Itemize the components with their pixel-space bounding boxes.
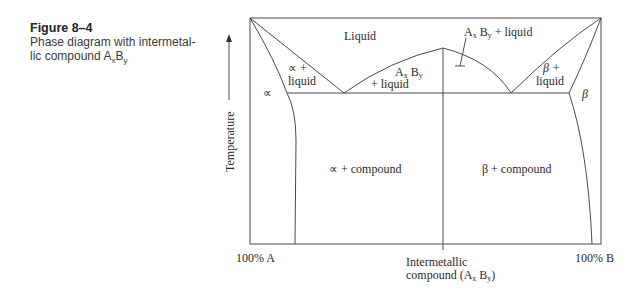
temperature-label: Temperature	[223, 112, 237, 172]
region-alpha-liquid-1: ∝ +	[288, 61, 307, 75]
region-compound-liquid-right: Ax By + liquid	[464, 25, 532, 40]
region-beta-liquid-1: β +	[542, 61, 560, 75]
region-alpha-compound: ∝ + compound	[329, 162, 401, 176]
leader-line	[460, 38, 466, 66]
x-label-compound-1: Intermetallic	[406, 255, 467, 269]
x-label-100-b: 100% B	[575, 251, 614, 265]
region-alpha: ∝	[263, 86, 272, 100]
liquidus-compound-right	[443, 48, 511, 93]
region-beta-compound: β + compound	[482, 162, 552, 176]
region-liquid: Liquid	[344, 29, 376, 43]
x-label-compound-2: compound (Ax By)	[406, 268, 495, 283]
x-label-100-a: 100% A	[236, 251, 275, 265]
diagram-frame	[250, 18, 601, 244]
solvus-alpha	[287, 93, 296, 244]
phase-diagram: Temperature Liquid ∝ + liquid ∝ Ax By + …	[0, 0, 635, 298]
region-beta-liquid-2: liquid	[536, 74, 564, 88]
arrowhead-icon	[226, 34, 232, 42]
solvus-beta	[569, 93, 592, 244]
solidus-alpha	[250, 18, 287, 93]
region-alpha-liquid-2: liquid	[288, 74, 316, 88]
region-compound-liquid-left-2: + liquid	[371, 77, 409, 91]
region-beta: β	[581, 87, 588, 101]
